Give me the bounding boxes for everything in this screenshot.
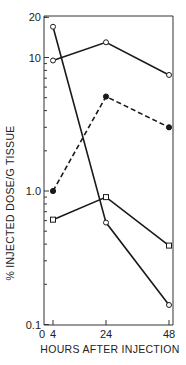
series-line-3 [51,195,172,248]
data-point-open-circle-icon [167,72,172,77]
data-point-open-circle-icon [167,302,172,307]
y-tick-label: 20 [29,11,41,23]
y-tick-label: 10 [29,52,41,64]
data-point-square-icon [167,243,172,248]
y-axis: 0.11.01020 [26,11,49,330]
y-tick-label: 1.0 [26,185,41,197]
data-point-square-icon [104,195,109,200]
series-path [53,42,169,75]
data-point-filled-circle-icon [50,188,55,193]
series-line-1 [51,40,172,78]
data-point-open-circle-icon [51,58,56,63]
data-point-open-circle-icon [104,220,109,225]
data-point-filled-circle-icon [166,125,171,130]
chart: 0.11.01020 042448 % INJECTED DOSE/G TISS… [0,0,186,365]
data-point-filled-circle-icon [103,94,108,99]
x-tick-label: 24 [100,328,112,340]
x-axis: 042448 [39,320,175,340]
x-tick-label: 0 [39,328,45,340]
x-tick-label: 48 [163,328,175,340]
data-point-open-circle-icon [104,40,109,45]
series-path [53,197,169,246]
x-axis-title: HOURS AFTER INJECTION [40,343,179,355]
data-point-open-circle-icon [51,24,56,29]
y-axis-title: % INJECTED DOSE/G TISSUE [4,125,16,280]
series-group [50,24,171,307]
data-point-square-icon [51,217,56,222]
series-path [53,27,169,305]
x-tick-label: 4 [50,328,56,340]
series-path [53,97,169,192]
series-line-2 [50,94,171,194]
